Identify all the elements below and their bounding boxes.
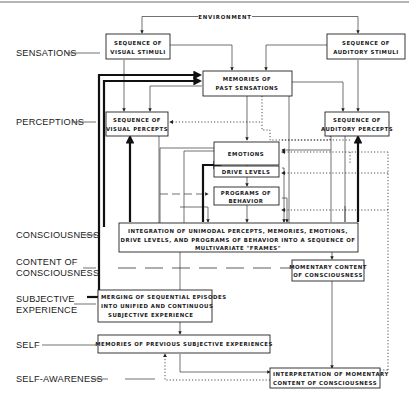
svg-text:BEHAVIOR: BEHAVIOR <box>228 198 263 204</box>
diagram-canvas: ENVIRONMENT SENSATIONS PERCEPTIONS CONSC… <box>0 0 409 399</box>
svg-text:PROGRAMS OF: PROGRAMS OF <box>221 190 271 196</box>
svg-text:INTEGRATION OF UNIMODAL PERCEP: INTEGRATION OF UNIMODAL PERCEPTS, MEMORI… <box>128 228 348 234</box>
level-subjective-2: EXPERIENCE <box>16 305 77 315</box>
svg-text:MULTIVARIATE "FRAMES": MULTIVARIATE "FRAMES" <box>195 245 281 251</box>
svg-text:AUDITORY PERCEPTS: AUDITORY PERCEPTS <box>321 126 393 132</box>
box-auditory-percepts: SEQUENCE OF AUDITORY PERCEPTS <box>321 112 393 136</box>
level-self: SELF <box>16 340 40 350</box>
svg-text:INTERPRETATION OF MOMENTARY: INTERPRETATION OF MOMENTARY <box>273 371 389 377</box>
level-subjective-1: SUBJECTIVE <box>16 294 75 304</box>
svg-text:MEMORIES OF PREVIOUS SUBJECTIV: MEMORIES OF PREVIOUS SUBJECTIVE EXPERIEN… <box>95 341 273 348</box>
box-auditory-stimuli: SEQUENCE OF AUDITORY STIMULI <box>327 34 405 59</box>
svg-text:EMOTIONS: EMOTIONS <box>228 151 264 157</box>
svg-text:DRIVE LEVELS: DRIVE LEVELS <box>222 169 271 175</box>
svg-text:OF CONSCIOUSNESS: OF CONSCIOUSNESS <box>293 272 363 278</box>
svg-text:MEMORIES OF: MEMORIES OF <box>223 76 271 82</box>
environment-label: ENVIRONMENT <box>198 14 252 20</box>
svg-text:MOMENTARY CONTENT: MOMENTARY CONTENT <box>289 264 367 270</box>
box-programs-of-behavior: PROGRAMS OF BEHAVIOR <box>214 187 279 205</box>
svg-text:MERGING OF SEQUENTIAL EPISODES: MERGING OF SEQUENTIAL EPISODES <box>101 294 227 300</box>
svg-text:DRIVE LEVELS, AND PROGRAMS OF: DRIVE LEVELS, AND PROGRAMS OF BEHAVIOR I… <box>121 237 356 243</box>
box-visual-stimuli: SEQUENCE OF VISUAL STIMULI <box>106 34 170 59</box>
level-labels: SENSATIONS PERCEPTIONS CONSCIOUSNESS CON… <box>16 48 155 384</box>
env-to-visual-arrow <box>142 17 198 34</box>
svg-text:INTO UNIFIED AND CONTINUOUS: INTO UNIFIED AND CONTINUOUS <box>101 303 213 309</box>
box-drive-levels: DRIVE LEVELS <box>214 166 279 177</box>
level-self-awareness: SELF-AWARENESS <box>16 374 103 384</box>
svg-text:CONTENT OF CONSCIOUSNESS: CONTENT OF CONSCIOUSNESS <box>273 380 377 386</box>
box-memories-past-sensations: MEMORIES OF PAST SENSATIONS <box>203 71 292 96</box>
level-content-1: CONTENT OF <box>16 257 78 267</box>
svg-text:SUBJECTIVE EXPERIENCE: SUBJECTIVE EXPERIENCE <box>108 312 193 319</box>
box-momentary-content: MOMENTARY CONTENT OF CONSCIOUSNESS <box>289 260 367 281</box>
svg-text:VISUAL STIMULI: VISUAL STIMULI <box>110 49 166 55</box>
box-interpretation: INTERPRETATION OF MOMENTARY CONTENT OF C… <box>270 368 389 388</box>
box-visual-percepts: SEQUENCE OF VISUAL PERCEPTS <box>106 112 168 136</box>
svg-text:SEQUENCE OF: SEQUENCE OF <box>333 117 381 123</box>
svg-text:SEQUENCE OF: SEQUENCE OF <box>342 40 390 46</box>
consciousness-model-diagram: ENVIRONMENT SENSATIONS PERCEPTIONS CONSC… <box>0 0 409 399</box>
box-merging: MERGING OF SEQUENTIAL EPISODES INTO UNIF… <box>98 290 227 322</box>
env-to-auditory-arrow <box>252 17 358 34</box>
box-memories-previous: MEMORIES OF PREVIOUS SUBJECTIVE EXPERIEN… <box>95 335 273 353</box>
svg-text:PAST SENSATIONS: PAST SENSATIONS <box>216 85 279 91</box>
box-integration: INTEGRATION OF UNIMODAL PERCEPTS, MEMORI… <box>119 223 358 252</box>
level-content-2: CONSCIOUSNESS <box>16 268 99 278</box>
svg-text:SEQUENCE OF: SEQUENCE OF <box>113 117 161 123</box>
svg-text:VISUAL PERCEPTS: VISUAL PERCEPTS <box>106 126 168 132</box>
box-emotions: EMOTIONS <box>214 142 279 165</box>
svg-text:SEQUENCE OF: SEQUENCE OF <box>114 40 162 46</box>
svg-text:AUDITORY STIMULI: AUDITORY STIMULI <box>333 49 399 55</box>
